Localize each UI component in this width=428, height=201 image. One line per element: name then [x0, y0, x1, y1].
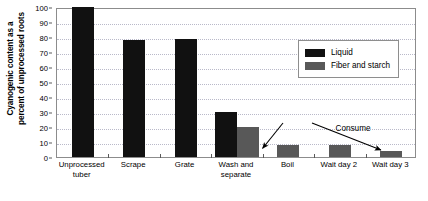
bar-fiber-and-starch — [237, 127, 259, 157]
legend-swatch-icon — [305, 62, 325, 70]
y-tick-mark — [49, 23, 53, 24]
x-tick-mark — [160, 154, 161, 158]
bar-liquid — [72, 7, 94, 157]
y-tick-label: 20 — [40, 124, 48, 133]
y-tick-label: 40 — [40, 94, 48, 103]
legend-item: Liquid — [305, 46, 390, 59]
legend-label: Liquid — [331, 48, 353, 57]
legend-label: Fiber and starch — [331, 61, 390, 70]
y-axis-ticks: 0102030405060708090100 — [28, 8, 52, 158]
x-tick-mark — [211, 154, 212, 158]
y-tick-mark — [49, 68, 53, 69]
y-tick-mark — [49, 128, 53, 129]
bar-fiber-and-starch — [380, 151, 402, 157]
y-tick-mark — [49, 143, 53, 144]
cyanogenic-content-bar-chart: Cyanogenic content as a percent of unpro… — [0, 0, 428, 201]
y-tick-label: 50 — [40, 79, 48, 88]
y-axis-title-line2: percent of unprocessed roots — [16, 12, 25, 125]
y-tick-label: 0 — [44, 154, 48, 163]
x-axis-labels: UnprocessedtuberScrapeGrateWash andsepar… — [56, 160, 416, 200]
y-tick-mark — [49, 98, 53, 99]
y-tick-mark — [49, 53, 53, 54]
y-tick-label: 70 — [40, 49, 48, 58]
bar-liquid — [123, 40, 145, 157]
y-axis-title-line1: Cyanogenic content as a — [6, 21, 15, 115]
x-tick-mark — [263, 154, 264, 158]
y-tick-label: 100 — [35, 4, 48, 13]
y-tick-mark — [49, 158, 53, 159]
y-axis-title: Cyanogenic content as a percent of unpro… — [6, 3, 27, 135]
y-tick-label: 90 — [40, 19, 48, 28]
y-tick-mark — [49, 8, 53, 9]
bar-fiber-and-starch — [277, 145, 299, 157]
y-tick-label: 80 — [40, 34, 48, 43]
legend: LiquidFiber and starch — [298, 40, 399, 78]
x-axis-label: Wait day 3 — [359, 160, 421, 170]
y-tick-mark — [49, 83, 53, 84]
y-tick-mark — [49, 113, 53, 114]
y-tick-mark — [49, 38, 53, 39]
y-tick-label: 10 — [40, 139, 48, 148]
plot-area: LiquidFiber and starch Consume — [56, 8, 416, 158]
gridline — [57, 84, 415, 85]
x-tick-mark — [366, 154, 367, 158]
legend-swatch-icon — [305, 49, 325, 57]
gridline — [57, 24, 415, 25]
gridline — [57, 99, 415, 100]
y-tick-label: 60 — [40, 64, 48, 73]
x-tick-mark — [314, 154, 315, 158]
bar-liquid — [175, 39, 197, 158]
consume-annotation-label: Consume — [335, 124, 370, 133]
x-tick-mark — [108, 154, 109, 158]
legend-item: Fiber and starch — [305, 59, 390, 72]
bar-fiber-and-starch — [329, 145, 351, 157]
y-tick-label: 30 — [40, 109, 48, 118]
bar-liquid — [215, 112, 237, 157]
